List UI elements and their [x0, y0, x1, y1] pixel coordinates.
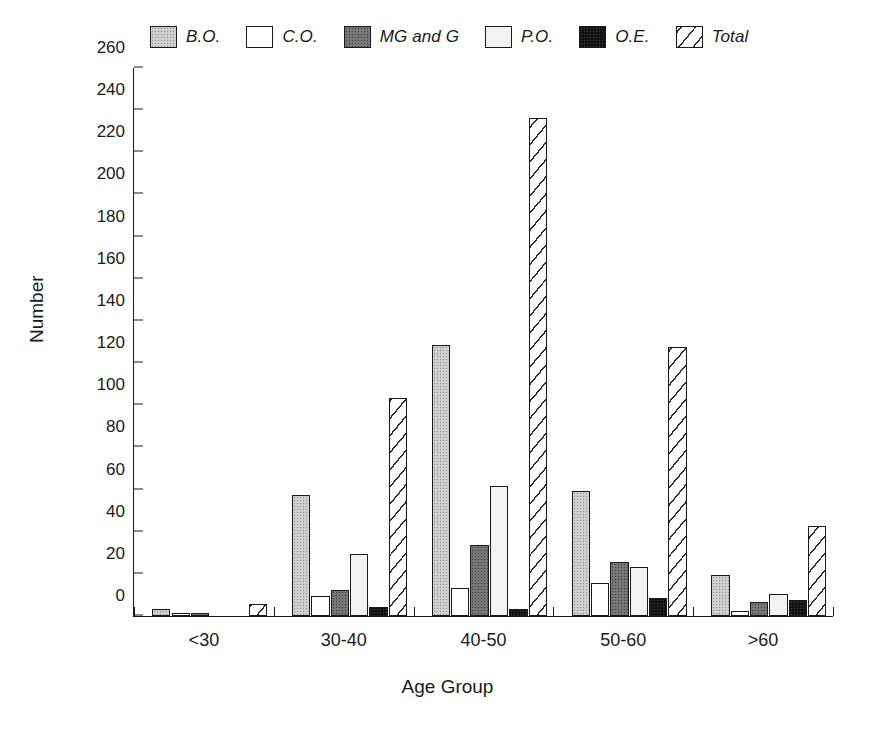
bar-mg-and-g-2: [470, 545, 488, 616]
x-tick-label: >60: [748, 630, 779, 651]
legend-swatch-icon: [150, 26, 177, 48]
legend-label: C.O.: [282, 27, 317, 47]
y-tick-label: 140: [97, 291, 134, 311]
y-tick-label: 20: [106, 544, 134, 564]
legend-label: O.E.: [615, 27, 649, 47]
y-tick-label: 40: [106, 502, 134, 522]
bar-mg-and-g-4: [750, 602, 768, 616]
y-tick-label: 100: [97, 375, 134, 395]
legend-item-o-e: O.E.: [579, 26, 649, 48]
legend-item-p-o: P.O.: [485, 26, 553, 48]
chart-figure: B.O.C.O.MG and GP.O.O.E.Total 0204060801…: [0, 0, 895, 735]
bar-o-e-2: [509, 609, 527, 616]
bar-o-e-1: [369, 607, 387, 616]
y-tick-label: 0: [116, 586, 134, 606]
bar-b-o-4: [711, 575, 729, 616]
x-tick-label: <30: [189, 630, 220, 651]
x-axis-title: Age Group: [0, 676, 895, 698]
y-tick-label: 200: [97, 164, 134, 184]
bar-p-o-1: [350, 554, 368, 616]
bar-p-o-2: [490, 486, 508, 616]
legend-label: MG and G: [380, 27, 459, 47]
bar-group: [693, 68, 833, 616]
bar-p-o-3: [630, 567, 648, 616]
y-tick-label: 220: [97, 122, 134, 142]
legend-swatch-icon: [246, 26, 273, 48]
bar-total-1: [389, 398, 407, 616]
y-tick-label: 260: [97, 38, 134, 58]
bar-mg-and-g-0: [191, 613, 209, 616]
bar-c-o-1: [311, 596, 329, 616]
bar-o-e-4: [789, 600, 807, 616]
legend-label: B.O.: [186, 27, 220, 47]
bar-group: [414, 68, 554, 616]
bar-total-3: [668, 347, 686, 616]
y-tick-label: 180: [97, 207, 134, 227]
bar-c-o-2: [451, 588, 469, 616]
y-tick-label: 240: [97, 80, 134, 100]
legend-label: Total: [712, 27, 749, 47]
bar-o-e-3: [649, 598, 667, 616]
bar-c-o-3: [591, 583, 609, 616]
bar-b-o-3: [572, 491, 590, 616]
bar-group: [553, 68, 693, 616]
bar-total-4: [808, 526, 826, 616]
y-tick-label: 80: [106, 417, 134, 437]
plot-area: 020406080100120140160180200220240260 <30…: [133, 68, 833, 617]
bar-b-o-2: [432, 345, 450, 616]
y-tick-label: 60: [106, 460, 134, 480]
bar-mg-and-g-1: [331, 590, 349, 616]
bar-total-2: [529, 118, 547, 616]
legend-item-b-o: B.O.: [150, 26, 220, 48]
legend-item-total: Total: [676, 26, 749, 48]
bar-mg-and-g-3: [610, 562, 628, 616]
legend-item-c-o: C.O.: [246, 26, 317, 48]
y-tick-label: 160: [97, 249, 134, 269]
chart-legend: B.O.C.O.MG and GP.O.O.E.Total: [150, 22, 770, 52]
bar-group: [134, 68, 274, 616]
x-tick-label: 40-50: [460, 630, 506, 651]
y-axis-title: Number: [26, 275, 48, 343]
legend-swatch-icon: [676, 26, 703, 48]
x-tick-label: 50-60: [600, 630, 646, 651]
bar-p-o-4: [769, 594, 787, 616]
bar-group: [274, 68, 414, 616]
legend-label: P.O.: [521, 27, 553, 47]
bar-c-o-0: [172, 613, 190, 616]
legend-swatch-icon: [579, 26, 606, 48]
bar-b-o-0: [152, 609, 170, 616]
x-tick-label: 30-40: [321, 630, 367, 651]
x-tick-mark: [833, 607, 834, 616]
legend-swatch-icon: [344, 26, 371, 48]
bar-b-o-1: [292, 495, 310, 616]
legend-item-mg-and-g: MG and G: [344, 26, 459, 48]
y-tick-label: 120: [97, 333, 134, 353]
bar-total-0: [249, 604, 267, 616]
legend-swatch-icon: [485, 26, 512, 48]
bar-c-o-4: [731, 611, 749, 616]
